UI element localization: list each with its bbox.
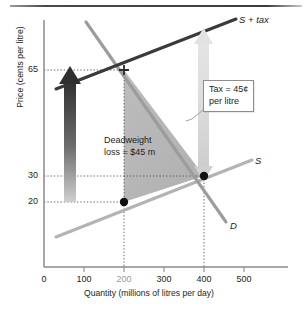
x-tick-label-500: 500: [231, 274, 257, 284]
y-tick-label-30: 30: [16, 170, 38, 180]
x-tick-label-0: 0: [31, 274, 57, 284]
tax-callout-line2: per litre: [209, 96, 248, 108]
x-tick-label-300: 300: [151, 274, 177, 284]
deadweight-loss-label: Deadweight loss = $45 m: [104, 135, 155, 158]
x-tick-label-100: 100: [71, 274, 97, 284]
tax-callout-line1: Tax = 45¢: [209, 84, 248, 96]
tax-callout-box: Tax = 45¢ per litre: [203, 80, 254, 112]
deadweight-loss-label-line2: loss = $45 m: [104, 147, 155, 159]
curve-label-d: D: [230, 220, 237, 231]
deadweight-loss-label-line1: Deadweight: [104, 135, 155, 147]
curve-label-s-plus-tax: S + tax: [239, 14, 269, 25]
x-tick-label-200: 200: [111, 274, 137, 284]
y-tick-label-65: 65: [16, 64, 38, 74]
x-axis-title: Quantity (millions of litres per day): [84, 288, 214, 298]
economics-tax-deadweight-loss-figure: Price (cents per litre) 65 30 20 0 100 2…: [0, 0, 304, 314]
curve-label-s: S: [255, 155, 261, 166]
y-tick-label-20: 20: [16, 196, 38, 206]
x-tick-label-400: 400: [191, 274, 217, 284]
